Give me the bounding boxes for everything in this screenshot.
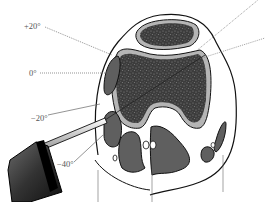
angle-label-minus40: −40° — [57, 160, 74, 169]
beam-line-lower — [202, 38, 265, 58]
right-posterior-muscle — [150, 126, 189, 175]
angle-line-minus20 — [48, 104, 100, 115]
angle-line-plus20 — [45, 27, 112, 55]
femur-bone — [116, 54, 206, 123]
medial-small-muscle — [201, 147, 214, 162]
medial-tendon — [214, 122, 226, 152]
vessel — [113, 155, 117, 161]
angle-label-plus20: +20° — [24, 22, 41, 31]
ultrasound-probe-body — [8, 142, 62, 202]
vessel — [150, 141, 156, 149]
lateral-condyle-muscle — [104, 111, 122, 146]
angle-label-zero: 0° — [29, 69, 37, 78]
central-muscle — [119, 132, 145, 172]
vessel — [143, 141, 149, 149]
angle-line-minus40 — [74, 135, 103, 162]
knee-cross-section-diagram — [0, 0, 272, 202]
angle-label-minus20: −20° — [31, 114, 48, 123]
vessel — [211, 143, 215, 148]
